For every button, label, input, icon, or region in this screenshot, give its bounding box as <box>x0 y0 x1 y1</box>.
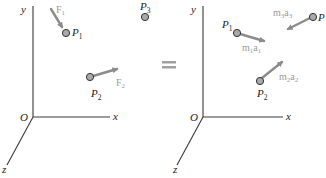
right-panel: y x z O P1 m1a1 P m3a3 P2 m2a2 <box>172 3 325 175</box>
particle-label-p2-right: P2 <box>256 87 268 102</box>
left-x-label: x <box>112 110 118 122</box>
left-z-axis <box>7 117 33 165</box>
left-y-label: y <box>20 3 26 15</box>
particle-label-p1-left: P1 <box>71 26 83 41</box>
particle-p3-right <box>309 13 316 20</box>
right-origin-label: O <box>190 111 198 123</box>
right-y-label: y <box>190 3 196 15</box>
particle-label-p3-right: P <box>317 11 325 23</box>
effective-force-label-m2a2: m2a2 <box>279 71 299 84</box>
effective-force-label-m1a1: m1a1 <box>242 42 262 55</box>
left-axes: y x z O <box>1 3 118 175</box>
left-origin-label: O <box>20 111 28 123</box>
right-z-label: z <box>172 163 178 175</box>
particle-p1-left <box>62 29 69 36</box>
force-label-f1: F1 <box>56 4 66 17</box>
effective-force-label-m3a3: m3a3 <box>273 7 293 20</box>
left-panel: y x z O F1 P1 P3 F2 P2 <box>1 0 151 175</box>
force-label-f2: F2 <box>116 77 126 90</box>
particle-label-p1-right: P1 <box>221 18 233 33</box>
particle-p2-right <box>256 77 263 84</box>
particle-label-p3-left: P3 <box>139 0 151 15</box>
effective-force-m1a1 <box>240 34 264 41</box>
particle-system-diagram: y x z O F1 P1 P3 F2 P2 y x z <box>0 0 326 178</box>
particle-label-p2-left: P2 <box>90 87 102 102</box>
right-z-axis <box>177 117 203 165</box>
right-x-label: x <box>285 110 291 122</box>
particle-p1-right <box>233 29 240 36</box>
force-vector-f2 <box>93 69 117 76</box>
equivalence-sign <box>162 61 176 69</box>
left-z-label: z <box>1 163 7 175</box>
particle-p2-left <box>86 73 93 80</box>
